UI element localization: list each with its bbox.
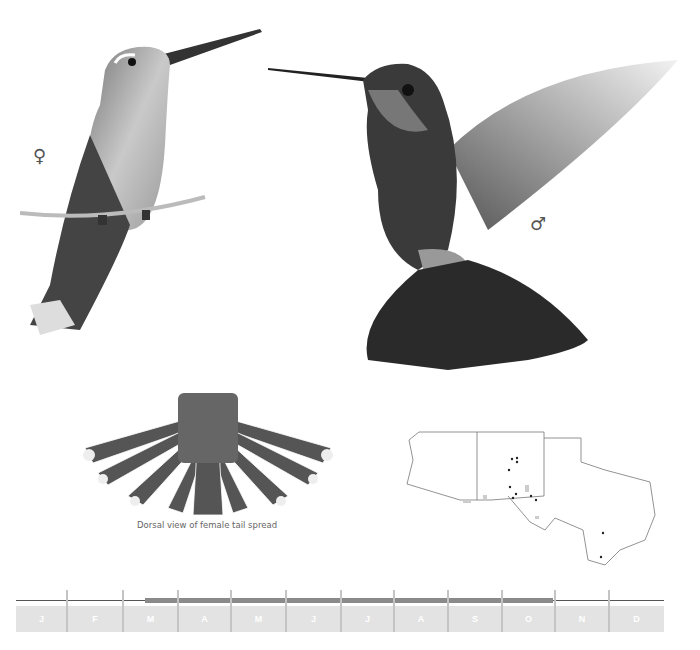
male-hummingbird-illustration (268, 50, 688, 400)
month-sep: S (448, 606, 502, 632)
range-map (405, 430, 665, 570)
month-divider (393, 590, 395, 632)
month-divider (177, 590, 179, 632)
female-hummingbird-illustration (20, 25, 270, 345)
month-divider (230, 590, 232, 632)
month-dec: D (609, 606, 664, 632)
month-divider (122, 590, 124, 632)
male-symbol: ♂ (530, 213, 546, 234)
month-divider (608, 590, 610, 632)
month-jan: J (16, 606, 67, 632)
month-divider (554, 590, 556, 632)
month-jun: J (286, 606, 341, 632)
month-bar: J F M A M J J A S O N D (16, 606, 664, 632)
tail-caption: Dorsal view of female tail spread (137, 520, 277, 530)
month-divider (340, 590, 342, 632)
tail-spread-illustration (83, 393, 333, 518)
month-may: M (231, 606, 286, 632)
month-divider (501, 590, 503, 632)
month-nov: N (555, 606, 609, 632)
female-symbol: ♀ (33, 145, 46, 166)
month-divider (285, 590, 287, 632)
month-jul: J (341, 606, 394, 632)
month-divider (447, 590, 449, 632)
month-apr: A (178, 606, 231, 632)
month-aug: A (394, 606, 448, 632)
month-divider (66, 590, 68, 632)
month-oct: O (502, 606, 555, 632)
occurrence-thick-bar (145, 598, 553, 603)
month-feb: F (67, 606, 123, 632)
month-mar: M (123, 606, 178, 632)
